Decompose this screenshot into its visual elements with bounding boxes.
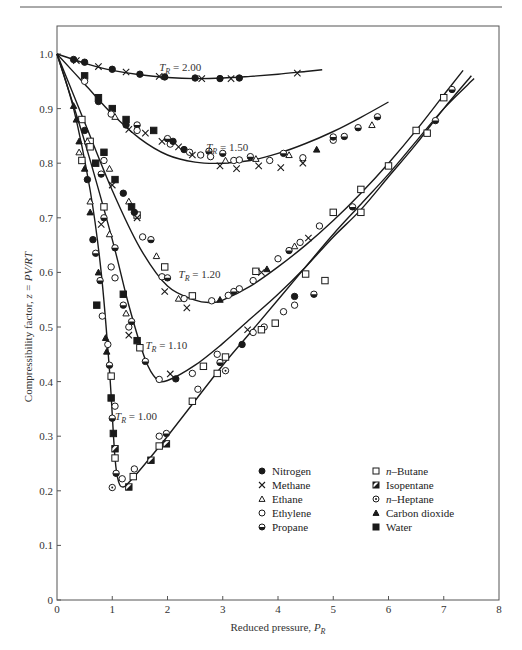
open-triangle-marker <box>106 231 112 237</box>
filled-square-marker <box>94 302 100 308</box>
y-tick-label: 1.0 <box>39 48 53 60</box>
x-tick-label: 4 <box>275 603 281 615</box>
x-marker <box>259 482 265 488</box>
filled-circle-marker <box>90 236 96 242</box>
half-filled-circle-marker <box>92 250 98 256</box>
open-circle-marker <box>195 386 201 392</box>
half-filled-circle-marker <box>247 153 253 159</box>
legend-label: n–Heptane <box>386 493 434 505</box>
legend-label: Methane <box>272 479 311 491</box>
filled-circle-marker <box>137 71 143 77</box>
open-circle-marker <box>134 127 140 133</box>
half-filled-circle-marker <box>120 302 126 308</box>
half-filled-circle-marker <box>355 125 361 131</box>
open-square-marker <box>358 186 364 192</box>
x-tick-label: 1 <box>110 603 116 615</box>
y-tick-label: 0.5 <box>39 321 53 333</box>
y-tick-label: 0.2 <box>39 485 53 497</box>
legend-label: n–Butane <box>386 465 428 477</box>
y-tick-label: 0.1 <box>39 539 53 551</box>
filled-square-marker <box>110 430 116 436</box>
open-circle-marker <box>156 376 162 382</box>
isotherm-label: TR = 1.20 <box>179 268 221 283</box>
legend-item: Isopentane <box>373 479 434 491</box>
legend-item: Methane <box>259 479 311 491</box>
open-square-marker <box>137 345 143 351</box>
legend-item: n–Butane <box>373 465 428 477</box>
filled-triangle-marker <box>217 297 223 303</box>
half-filled-circle-marker <box>217 359 223 365</box>
filled-triangle-marker <box>102 335 108 341</box>
open-triangle-marker <box>259 496 265 501</box>
open-circle-marker <box>112 275 118 281</box>
y-tick-label: 0.7 <box>39 212 53 224</box>
filled-square-marker <box>108 395 114 401</box>
open-circle-marker <box>101 157 107 163</box>
open-circle-marker <box>267 157 273 163</box>
filled-circle-marker <box>109 66 115 72</box>
half-filled-circle-marker <box>128 318 134 324</box>
dotted-circle-marker <box>373 496 379 502</box>
open-circle-marker <box>139 234 145 240</box>
y-tick-label: 0.9 <box>39 103 53 115</box>
legend-item: Nitrogen <box>259 465 312 477</box>
open-square-marker <box>156 443 162 449</box>
open-circle-marker <box>236 286 242 292</box>
legend-label: Nitrogen <box>272 465 312 477</box>
x-marker <box>278 164 284 170</box>
half-filled-circle-marker <box>113 470 119 476</box>
open-circle-marker <box>81 78 87 84</box>
open-square-marker <box>112 455 118 461</box>
x-marker <box>228 75 234 81</box>
filled-square-marker <box>134 337 140 343</box>
open-triangle-marker <box>222 157 228 163</box>
x-axis-title: Reduced pressure, PR <box>230 621 325 636</box>
chart-canvas: 012345678 00.10.20.30.40.50.60.70.80.91.… <box>0 0 522 650</box>
half-filled-circle-marker <box>432 117 438 123</box>
open-circle-marker <box>280 309 286 315</box>
half-filled-square-marker <box>126 484 132 490</box>
open-square-marker <box>358 209 364 215</box>
legend-label: Carbon dioxide <box>386 507 454 519</box>
half-filled-square-marker <box>112 446 118 452</box>
open-circle-marker <box>119 476 125 482</box>
filled-circle-marker <box>239 341 245 347</box>
filled-square-marker <box>92 160 98 166</box>
x-marker <box>305 235 311 241</box>
y-tick-label: 0.6 <box>39 266 53 278</box>
legend-label: Isopentane <box>386 479 434 491</box>
x-marker <box>142 130 148 136</box>
legend-item: Propane <box>259 521 308 533</box>
open-circle-marker <box>236 157 242 163</box>
open-square-marker <box>162 264 168 270</box>
isotherm-label: TR = 1.10 <box>145 339 187 354</box>
open-circle-marker <box>99 313 105 319</box>
dotted-circle-marker <box>109 484 115 490</box>
open-square-marker <box>222 354 228 360</box>
open-triangle-marker <box>106 165 112 171</box>
x-marker <box>233 165 239 171</box>
x-marker <box>159 138 165 144</box>
legend-label: Water <box>386 521 412 533</box>
half-filled-circle-marker <box>330 134 336 140</box>
x-marker <box>126 332 132 338</box>
x-tick-label: 6 <box>386 603 392 615</box>
open-triangle-marker <box>153 253 159 259</box>
half-filled-circle-marker <box>97 277 103 283</box>
isotherm-label: TR = 1.50 <box>206 141 248 156</box>
filled-circle-marker <box>259 468 265 474</box>
filled-circle-marker <box>173 376 179 382</box>
filled-triangle-marker <box>373 510 379 515</box>
half-filled-circle-marker <box>259 524 265 530</box>
open-square-marker <box>330 209 336 215</box>
half-filled-circle-marker <box>449 86 455 92</box>
half-filled-circle-marker <box>163 430 169 436</box>
open-square-marker <box>79 157 85 163</box>
legend-label: Ethane <box>272 493 303 505</box>
half-filled-square-marker <box>373 482 379 488</box>
half-filled-circle-marker <box>311 291 317 297</box>
y-axis-title: Compressibility factor, z = PV/RT <box>22 251 34 402</box>
half-filled-circle-marker <box>341 133 347 139</box>
filled-circle-marker <box>81 59 87 65</box>
x-marker <box>167 371 173 377</box>
